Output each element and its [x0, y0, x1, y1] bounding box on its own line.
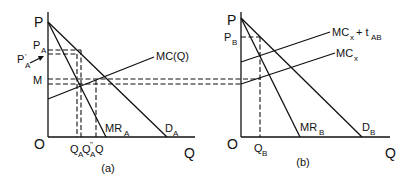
panel-a-d-label: D A — [165, 122, 179, 138]
panel-b-x-label: Q — [385, 145, 396, 161]
svg-text:MR: MR — [300, 121, 317, 133]
svg-text:MC: MC — [336, 47, 353, 59]
svg-text:AB: AB — [371, 33, 382, 42]
panel-a-caption: (a) — [101, 162, 114, 174]
panel-b-d-label: D B — [362, 121, 375, 137]
panel-a-m-label: M — [33, 74, 42, 86]
arrow-icon — [30, 56, 44, 63]
panel-b-mr-curve — [241, 18, 300, 137]
svg-text:B: B — [370, 128, 375, 137]
svg-text:A: A — [173, 129, 179, 138]
panel-a-qa-dprime-label: Q " A — [82, 140, 96, 159]
panel-a-pa-prime-label: P ' A — [17, 52, 31, 70]
svg-text:': ' — [25, 52, 27, 61]
svg-text:D: D — [165, 122, 173, 134]
panel-a-mc-label: MC(Q) — [156, 50, 189, 62]
panel-a-x-label: Q — [184, 145, 195, 161]
svg-text:B: B — [319, 128, 324, 137]
panel-b: P O Q P B MC x + t AB MC x MR B D B Q B — [224, 12, 396, 168]
svg-text:B: B — [232, 38, 237, 47]
panel-a-mr-label: MR A — [105, 122, 130, 138]
panel-b-mc-label: MC x — [336, 47, 358, 63]
panel-b-mr-label: MR B — [300, 121, 324, 137]
svg-text:A: A — [41, 46, 47, 55]
svg-text:P: P — [33, 39, 40, 51]
svg-text:A: A — [124, 129, 130, 138]
svg-text:P: P — [224, 31, 231, 43]
svg-text:x: x — [354, 54, 358, 63]
svg-text:MR: MR — [105, 122, 122, 134]
two-panel-diagram: P O Q P A P ' A M MC(Q) MR A D A Q A — [0, 0, 414, 182]
panel-b-mc-tax-curve — [241, 32, 330, 62]
panel-b-y-label: P — [227, 12, 236, 28]
panel-b-pb-label: P B — [224, 31, 237, 47]
svg-text:MC: MC — [332, 26, 349, 38]
panel-b-qb-label: Q B — [254, 142, 267, 158]
svg-text:B: B — [262, 149, 267, 158]
panel-b-caption: (b) — [296, 156, 309, 168]
svg-text:+ t: + t — [356, 26, 369, 38]
panel-a-origin-label: O — [34, 136, 45, 152]
svg-text:D: D — [362, 121, 370, 133]
panel-a-mc-curve — [48, 57, 154, 99]
panel-a-q-label: Q — [95, 143, 104, 155]
svg-text:P: P — [17, 53, 24, 65]
svg-text:": " — [90, 140, 93, 149]
panel-b-origin-label: O — [227, 136, 238, 152]
panel-a-pa-label: P A — [33, 39, 47, 55]
panel-b-mc-tax-label: MC x + t AB — [332, 26, 382, 42]
panel-a-y-label: P — [34, 14, 43, 30]
svg-text:x: x — [350, 33, 354, 42]
